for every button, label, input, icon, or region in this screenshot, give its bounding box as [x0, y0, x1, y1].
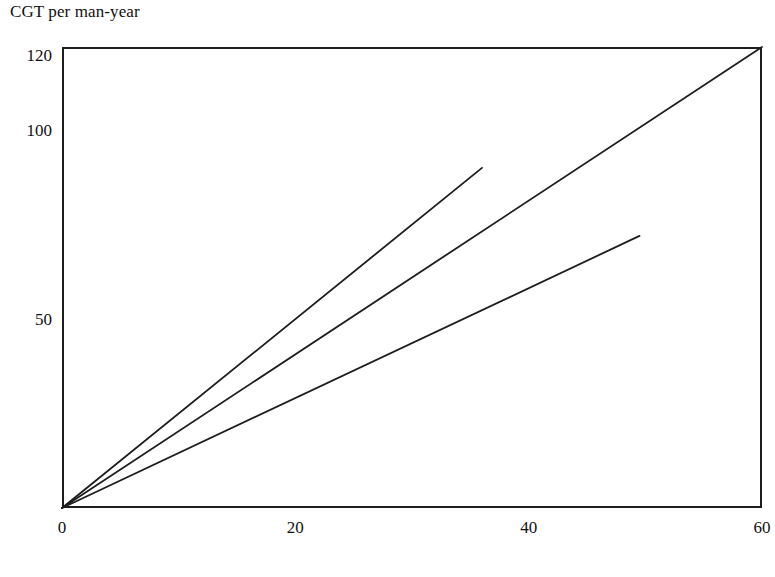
series-line-steep-line [62, 168, 482, 508]
series-group [62, 47, 762, 508]
x-tick-label-40: 40 [520, 519, 537, 536]
y-tick-label-100: 100 [0, 122, 52, 139]
x-tick-label-20: 20 [287, 519, 304, 536]
series-line-shallow-line [62, 236, 640, 508]
plot-series-lines [62, 47, 762, 508]
y-tick-label-50: 50 [0, 311, 52, 328]
chart-figure: CGT per man-year 120 100 50 0 20 40 60 [0, 0, 775, 577]
x-tick-label-0: 0 [58, 519, 67, 536]
x-tick-label-60: 60 [754, 519, 771, 536]
x-axis-tick-labels: 0 20 40 60 [0, 519, 775, 543]
series-line-diagonal-line [62, 47, 762, 508]
y-tick-label-120: 120 [0, 47, 52, 64]
y-axis-tick-labels: 120 100 50 [0, 0, 52, 577]
